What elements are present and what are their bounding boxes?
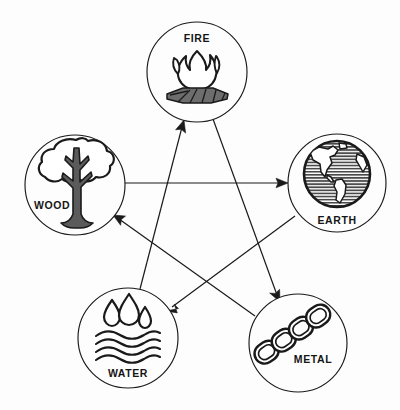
node-label-fire: FIRE	[184, 32, 210, 44]
node-label-earth: EARTH	[317, 214, 356, 226]
globe-icon	[304, 141, 370, 207]
wuxing-cycle-svg: FIRE EARTH METAL WATER WOOD	[0, 0, 400, 410]
five-elements-diagram: FIRE EARTH METAL WATER WOOD	[0, 0, 400, 410]
edge-fire-to-metal	[213, 119, 280, 302]
node-label-wood: WOOD	[34, 199, 70, 211]
node-label-water: WATER	[108, 367, 148, 379]
edge-wood-to-earth	[125, 178, 288, 188]
node-label-metal: METAL	[294, 353, 332, 365]
edge-water-to-fire	[140, 120, 186, 289]
edge-group	[113, 119, 295, 316]
